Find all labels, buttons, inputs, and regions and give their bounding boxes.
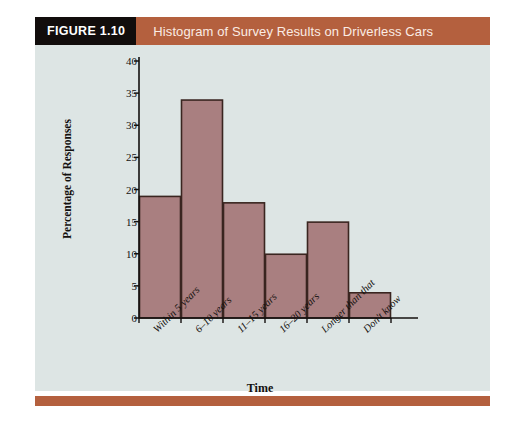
histogram-bar bbox=[308, 222, 349, 318]
histogram-bar bbox=[182, 100, 223, 318]
histogram-bar bbox=[224, 203, 265, 318]
histogram-bar bbox=[266, 254, 307, 318]
plot-area bbox=[35, 45, 490, 391]
figure-number-badge: FIGURE 1.10 bbox=[35, 17, 136, 45]
figure-header-bar: FIGURE 1.10 Histogram of Survey Results … bbox=[35, 17, 490, 45]
histogram-bar bbox=[350, 293, 391, 318]
figure-page: FIGURE 1.10 Histogram of Survey Results … bbox=[0, 0, 525, 435]
figure-panel: FIGURE 1.10 Histogram of Survey Results … bbox=[35, 17, 490, 391]
figure-title: Histogram of Survey Results on Driverles… bbox=[136, 17, 433, 45]
histogram-chart: Percentage of Responses 0510152025303540… bbox=[35, 45, 490, 391]
x-axis-title: Time bbox=[90, 381, 430, 396]
figure-bottom-rule bbox=[35, 396, 490, 406]
histogram-bar bbox=[140, 196, 181, 318]
